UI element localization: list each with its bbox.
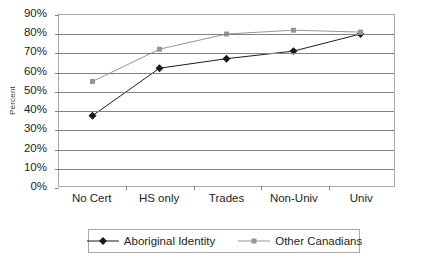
x-axis-tick-label: Trades xyxy=(209,192,244,205)
legend-square-marker-icon xyxy=(237,235,271,247)
data-point-marker xyxy=(89,112,97,120)
y-axis-tick-label: 50% xyxy=(24,85,47,97)
y-axis-tick-label: 70% xyxy=(24,46,47,58)
gridline xyxy=(59,130,394,131)
x-axis-tick-labels: No CertHS onlyTradesNon-UnivUniv xyxy=(58,189,395,211)
y-axis-tick-label: 60% xyxy=(24,66,47,78)
y-axis-tick-label: 40% xyxy=(24,104,47,116)
y-axis-tick-mark xyxy=(55,169,59,170)
y-axis-tick-label: 10% xyxy=(24,162,47,174)
gridline xyxy=(59,111,394,112)
y-axis-tick-label: 30% xyxy=(24,123,47,135)
legend-label: Aboriginal Identity xyxy=(124,235,215,247)
x-axis-tick-label: Non-Univ xyxy=(270,192,318,205)
data-point-marker xyxy=(291,28,296,33)
y-axis-tick-labels: 90%80%70%60%50%40%30%20%10%0% xyxy=(0,0,55,261)
x-axis-tick-label: No Cert xyxy=(72,192,112,205)
y-axis-tick-label: 80% xyxy=(24,27,47,39)
gridline xyxy=(59,150,394,151)
y-axis-tick-mark xyxy=(55,111,59,112)
legend-diamond-marker-icon xyxy=(86,235,120,247)
data-point-marker xyxy=(157,47,162,52)
x-axis-tick-label: Univ xyxy=(350,192,373,205)
chart-legend: Aboriginal IdentityOther Canadians xyxy=(88,229,360,253)
y-axis-tick-mark xyxy=(55,73,59,74)
y-axis-tick-label: 0% xyxy=(30,181,47,193)
y-axis-tick-label: 20% xyxy=(24,143,47,155)
x-axis-tick-label: HS only xyxy=(139,192,179,205)
gridline xyxy=(59,92,394,93)
series-layer xyxy=(59,15,394,186)
gridline xyxy=(59,53,394,54)
y-axis-tick-mark xyxy=(55,15,59,16)
data-point-marker xyxy=(156,64,164,72)
data-point-marker xyxy=(90,79,95,84)
y-axis-tick-mark xyxy=(55,53,59,54)
data-point-marker xyxy=(223,55,231,63)
legend-label: Other Canadians xyxy=(275,235,362,247)
legend-item[interactable]: Other Canadians xyxy=(237,235,362,247)
y-axis-tick-mark xyxy=(55,34,59,35)
y-axis-tick-label: 90% xyxy=(24,8,47,20)
line-chart: Percent 90%80%70%60%50%40%30%20%10%0% No… xyxy=(0,0,421,261)
gridline xyxy=(59,169,394,170)
y-axis-tick-mark xyxy=(55,150,59,151)
gridline xyxy=(59,73,394,74)
y-axis-tick-mark xyxy=(55,92,59,93)
plot-area xyxy=(58,14,395,187)
y-axis-tick-mark xyxy=(55,130,59,131)
series-line xyxy=(93,34,361,116)
legend-item[interactable]: Aboriginal Identity xyxy=(86,235,215,247)
gridline xyxy=(59,34,394,35)
